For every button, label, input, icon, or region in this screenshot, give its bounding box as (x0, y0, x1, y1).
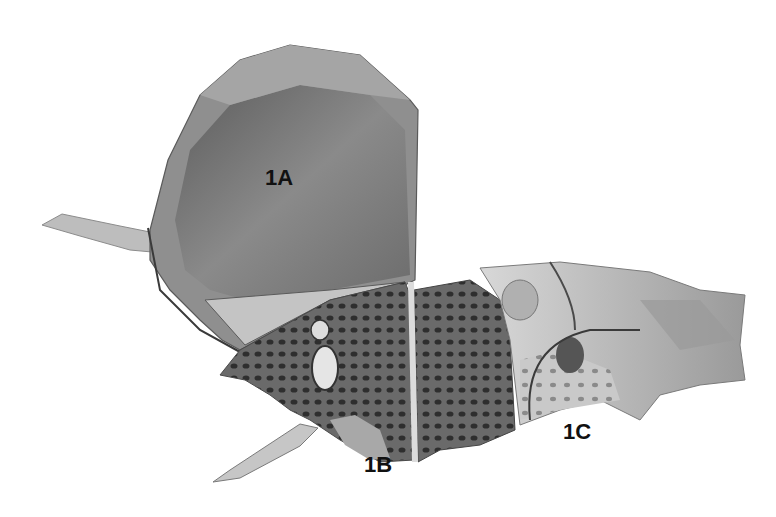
petrous-band (408, 280, 515, 462)
petrous-apex (480, 262, 745, 425)
zygomatic-process (42, 214, 152, 252)
label-1a: 1A (265, 165, 293, 191)
label-1c: 1C (563, 419, 591, 445)
label-1b: 1B (364, 452, 392, 478)
anatomical-figure: 1A 1B 1C (0, 0, 776, 517)
bone-illustration (0, 0, 776, 517)
styloid-process (213, 424, 318, 482)
